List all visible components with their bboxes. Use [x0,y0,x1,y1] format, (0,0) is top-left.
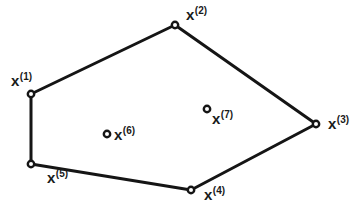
point-x6-label: x(6) [114,125,135,143]
point-x5-marker [28,161,34,167]
point-x4-marker [188,187,194,193]
point-x7-label: x(7) [212,109,233,127]
point-x7-marker [204,106,210,112]
point-x5-label: x(5) [47,168,68,186]
labels-group: x(1)x(2)x(3)x(4)x(5)x(6)x(7) [11,5,349,203]
point-x6-marker [104,131,110,137]
point-x3-label: x(3) [328,114,349,132]
convex-hull-diagram: x(1)x(2)x(3)x(4)x(5)x(6)x(7) [0,0,363,208]
point-x3-marker [313,121,319,127]
points-group [28,22,319,193]
point-x2-marker [172,22,178,28]
convex-hull-polygon [31,25,316,190]
point-x1-label: x(1) [11,71,32,89]
point-x2-label: x(2) [186,5,207,23]
point-x4-label: x(4) [204,185,225,203]
point-x1-marker [28,91,34,97]
